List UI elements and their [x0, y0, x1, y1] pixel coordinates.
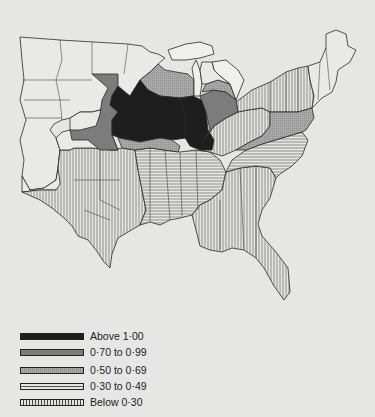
legend-label: 0·50 to 0·69 — [90, 364, 147, 376]
map-legend: Above 1·00 0·70 to 0·99 0·50 to 0·69 0·3… — [20, 328, 147, 410]
legend-item-above-1-00: Above 1·00 — [20, 328, 147, 344]
legend-swatch-horizontal-hatch — [20, 383, 84, 390]
legend-item-0-30-to-0-49: 0·30 to 0·49 — [20, 378, 147, 394]
legend-swatch-dark-grey — [20, 349, 84, 356]
legend-swatch-vertical-hatch — [20, 399, 84, 406]
legend-label: Below 0·30 — [90, 396, 143, 408]
legend-item-0-70-to-0-99: 0·70 to 0·99 — [20, 344, 147, 360]
legend-label: 0·30 to 0·49 — [90, 380, 147, 392]
region-new-england — [308, 30, 356, 108]
lake-superior — [168, 42, 214, 60]
region-ny-pa — [236, 66, 314, 112]
legend-item-0-50-to-0-69: 0·50 to 0·69 — [20, 362, 147, 378]
legend-swatch-solid-black — [20, 333, 84, 340]
legend-label: Above 1·00 — [90, 330, 144, 342]
legend-label: 0·70 to 0·99 — [90, 346, 147, 358]
legend-item-below-0-30: Below 0·30 — [20, 394, 147, 410]
legend-swatch-light-grey — [20, 367, 84, 374]
